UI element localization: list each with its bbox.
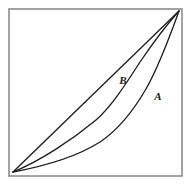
figure-container: B A (0, 0, 192, 185)
curve-label-b: B (118, 74, 126, 86)
curve-diagram: B A (0, 0, 192, 185)
curve-label-a: A (153, 90, 161, 102)
